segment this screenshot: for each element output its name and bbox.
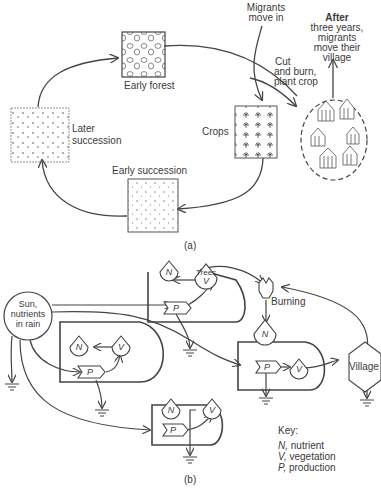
label-source-3: in rain — [4, 319, 52, 330]
label-p-trees: P — [169, 303, 183, 314]
label-early-forest: Early forest — [124, 80, 175, 91]
module-right-frame — [238, 342, 324, 390]
label-later-succession-1: Later — [72, 123, 95, 134]
label-v-right: V — [293, 364, 305, 375]
key-item-production: P, production — [278, 462, 336, 473]
label-village: Village — [345, 361, 381, 372]
burning-switch-icon — [259, 278, 273, 298]
figure-b — [4, 266, 374, 463]
flow-source-sink — [11, 336, 12, 382]
label-later-succession-2: succession — [72, 135, 121, 146]
later-succession-box — [11, 108, 69, 162]
crops-box — [235, 106, 277, 158]
label-burning: Burning — [271, 296, 305, 307]
flow-v-to-village — [303, 360, 338, 368]
label-n-right: N — [259, 329, 271, 340]
label-n-trees: N — [163, 267, 175, 278]
label-early-succession: Early succession — [112, 165, 187, 176]
label-migrants-2: move in — [244, 12, 288, 23]
key-item-vegetation: V, vegetation — [278, 451, 336, 462]
label-p-right: P — [260, 362, 274, 373]
label-after-5: village — [305, 52, 369, 63]
key-symbol: V, — [278, 451, 287, 462]
arrow-later-to-early-forest — [38, 58, 118, 107]
early-succession-box — [128, 179, 178, 232]
key-symbol: N, — [278, 440, 288, 451]
key-item-nutrient: N, nutrient — [278, 440, 324, 451]
label-p-bottom: P — [166, 425, 180, 436]
label-n-left: N — [73, 342, 85, 353]
label-v-left: V — [115, 342, 127, 353]
hut-icons — [311, 99, 359, 168]
arrow-crops-to-early-succession — [178, 158, 263, 209]
label-crops: Crops — [202, 126, 229, 137]
early-forest-box — [122, 32, 165, 77]
caption-a: (a) — [184, 240, 196, 251]
key-text: production — [289, 462, 336, 473]
figure-a — [38, 26, 333, 216]
label-cut-3: plant crop — [274, 76, 318, 87]
label-p-left: P — [83, 367, 97, 378]
key-title: Key: — [278, 425, 298, 436]
village-circle — [301, 99, 367, 180]
label-n-bottom: N — [165, 405, 177, 416]
caption-b: (b) — [184, 474, 196, 485]
key-text: vegetation — [290, 451, 336, 462]
label-v-trees: V — [200, 276, 212, 287]
label-v-bottom: V — [206, 405, 218, 416]
key-symbol: P, — [278, 462, 286, 473]
key-text: nutrient — [291, 440, 324, 451]
